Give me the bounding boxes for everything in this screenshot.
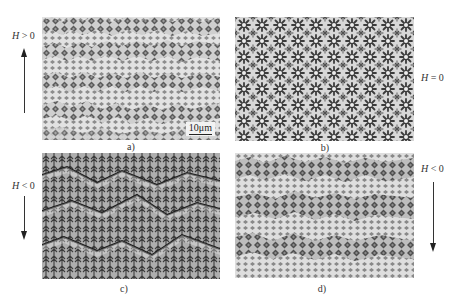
panel-caption-b: b) bbox=[310, 142, 340, 153]
arrow-down-icon bbox=[24, 196, 25, 232]
field-label-b: H = 0 bbox=[421, 72, 444, 83]
arrow-up-icon bbox=[24, 56, 25, 113]
field-relation: < 0 bbox=[428, 163, 444, 174]
micrograph-panel-c bbox=[42, 153, 220, 279]
star-network-texture bbox=[235, 17, 414, 141]
scale-bar-label: 10μm bbox=[189, 122, 212, 133]
panel-caption-c: c) bbox=[109, 283, 139, 294]
micrograph-panel-b bbox=[235, 17, 414, 141]
field-relation: = 0 bbox=[428, 72, 444, 83]
scale-bar-line bbox=[189, 134, 212, 135]
arrow-down-icon bbox=[433, 182, 434, 244]
diamond-stripe-texture bbox=[235, 153, 414, 278]
field-label-a: H > 0 bbox=[12, 30, 35, 41]
field-label-d: H < 0 bbox=[421, 163, 444, 174]
field-relation: > 0 bbox=[19, 30, 35, 41]
panel-caption-a: a) bbox=[116, 141, 146, 152]
micrograph-panel-a: 10μm bbox=[42, 17, 220, 140]
panel-caption-d: d) bbox=[307, 283, 337, 294]
field-relation: < 0 bbox=[19, 180, 35, 191]
field-label-c: H < 0 bbox=[12, 180, 35, 191]
micrograph-panel-d bbox=[235, 153, 414, 278]
scale-bar: 10μm bbox=[186, 122, 215, 136]
fir-tree-texture bbox=[42, 153, 220, 279]
